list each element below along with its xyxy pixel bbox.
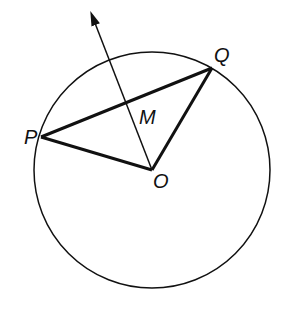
- label-p: P: [24, 126, 38, 148]
- label-o: O: [153, 170, 169, 192]
- ray-om: [93, 18, 152, 170]
- segment-qo: [152, 68, 212, 170]
- label-q: Q: [214, 44, 230, 66]
- label-m: M: [139, 106, 156, 128]
- geometry-diagram: P Q M O: [0, 0, 297, 311]
- segment-po: [41, 137, 152, 170]
